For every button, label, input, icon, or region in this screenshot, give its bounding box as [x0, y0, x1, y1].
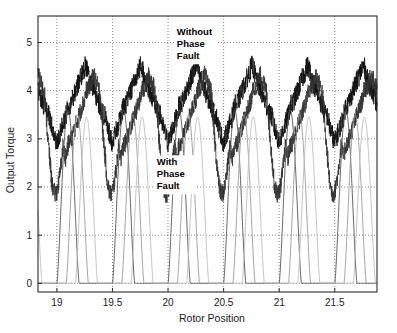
- y-axis-title: Output Torque: [4, 127, 16, 194]
- annotation-line: Fault: [157, 180, 181, 191]
- x-tick-label: 19.5: [103, 297, 123, 308]
- y-tick-label: 2: [26, 181, 32, 192]
- y-tick-label: 3: [26, 133, 32, 144]
- annotation-line: Without: [177, 26, 213, 37]
- annotation-line: Phase: [157, 168, 185, 179]
- annotation-line: With: [157, 156, 178, 167]
- y-tick-label: 0: [26, 278, 32, 289]
- annotation-line: Fault: [177, 50, 201, 61]
- y-tick-label: 5: [26, 37, 32, 48]
- x-tick-label: 20.5: [214, 297, 234, 308]
- x-tick-label: 19: [51, 297, 63, 308]
- x-axis-title: Rotor Position: [179, 312, 245, 324]
- annotation-without-phase-fault: WithoutPhaseFault: [175, 25, 217, 64]
- annotation-with-phase-fault: WithPhaseFault: [155, 155, 197, 194]
- chart-svg: 1919.52020.52121.5012345 WithoutPhaseFau…: [0, 0, 397, 333]
- x-tick-label: 21.5: [325, 297, 345, 308]
- y-tick-label: 1: [26, 230, 32, 241]
- annotation-line: Phase: [177, 38, 205, 49]
- x-tick-label: 21: [274, 297, 286, 308]
- torque-vs-rotor-position-figure: 1919.52020.52121.5012345 WithoutPhaseFau…: [0, 0, 397, 333]
- x-tick-label: 20: [162, 297, 174, 308]
- y-tick-label: 4: [26, 85, 32, 96]
